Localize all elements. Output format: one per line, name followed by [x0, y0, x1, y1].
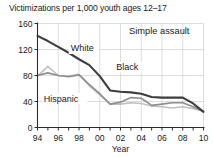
x-tick-label: 06: [157, 133, 167, 143]
x-tick-label: 10: [199, 133, 209, 143]
tick-labels: 04080120160949698000204060810: [18, 19, 208, 143]
x-tick-label: 04: [136, 133, 146, 143]
x-tick-label: 02: [116, 133, 126, 143]
y-tick-label: 0: [28, 123, 33, 133]
y-tick-label: 160: [18, 19, 33, 29]
simple-assault-line-chart: Victimizations per 1,000 youth ages 12–1…: [0, 0, 215, 157]
x-tick-label: 08: [178, 133, 188, 143]
x-tick-label: 94: [33, 133, 43, 143]
y-tick-label: 40: [23, 97, 33, 107]
series-label-white: White: [71, 43, 94, 53]
chart-plot-area: 04080120160949698000204060810 WhiteBlack…: [0, 0, 215, 157]
x-tick-label: 98: [74, 133, 84, 143]
series-label-black: Black: [116, 62, 139, 72]
y-tick-label: 80: [23, 71, 33, 81]
x-tick-label: 96: [53, 133, 63, 143]
annotation-simple-assault: Simple assault: [129, 26, 190, 36]
x-tick-label: 00: [95, 133, 105, 143]
y-tick-label: 120: [18, 45, 33, 55]
x-axis-title: Year: [112, 144, 130, 154]
series-label-hispanic: Hispanic: [44, 94, 79, 104]
